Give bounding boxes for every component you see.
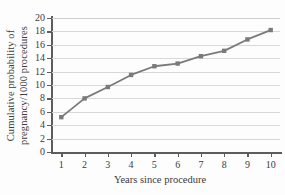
y-tick-label: 10 [23,80,45,90]
y-tick-label: 0 [23,147,45,157]
x-tick-mark [61,153,62,157]
data-point-marker [222,49,226,53]
y-tick-mark [47,72,51,73]
y-tick-mark [47,58,51,59]
data-point-marker [175,61,179,65]
series-line-chart [52,18,280,152]
x-axis-title: Years since procedure [40,174,280,185]
x-tick-label: 7 [191,159,211,170]
x-tick-mark [154,153,155,157]
x-tick-label: 1 [51,159,71,170]
y-tick-label: 20 [23,13,45,23]
data-point-marker [199,54,203,58]
x-tick-label: 2 [75,159,95,170]
x-tick-label: 4 [121,159,141,170]
x-tick-label: 6 [168,159,188,170]
data-point-marker [268,28,272,32]
x-tick-label: 10 [261,159,281,170]
y-tick-mark [47,31,51,32]
x-tick-label: 9 [237,159,257,170]
series-markers [59,28,273,120]
data-point-marker [245,37,249,41]
data-point-marker [129,73,133,77]
y-tick-mark [47,112,51,113]
y-tick-label: 16 [23,40,45,50]
x-tick-mark [271,153,272,157]
x-tick-mark [178,153,179,157]
data-point-marker [82,96,86,100]
x-tick-label: 3 [98,159,118,170]
series-polyline [61,30,270,117]
x-tick-mark [201,153,202,157]
x-tick-mark [85,153,86,157]
y-tick-label: 18 [23,26,45,36]
data-point-marker [59,115,63,119]
y-tick-mark [47,45,51,46]
x-tick-label: 8 [214,159,234,170]
x-tick-label: 5 [144,159,164,170]
x-tick-mark [131,153,132,157]
x-tick-mark [108,153,109,157]
y-tick-label: 14 [23,53,45,63]
y-tick-mark [47,139,51,140]
data-point-marker [106,85,110,89]
x-tick-mark [247,153,248,157]
chart-figure: Cumulative probability of pregnancy/1000… [0,0,285,195]
y-tick-label: 4 [23,120,45,130]
y-tick-label: 8 [23,93,45,103]
y-tick-mark [47,152,51,153]
y-tick-label: 2 [23,134,45,144]
data-point-marker [152,64,156,68]
y-tick-mark [47,85,51,86]
plot-area [52,18,280,152]
y-axis-title-line-1: Cumulative probability of [5,26,18,145]
y-tick-mark [47,18,51,19]
y-tick-mark [47,125,51,126]
y-tick-label: 12 [23,67,45,77]
x-tick-mark [224,153,225,157]
y-tick-label: 6 [23,107,45,117]
y-tick-mark [47,98,51,99]
